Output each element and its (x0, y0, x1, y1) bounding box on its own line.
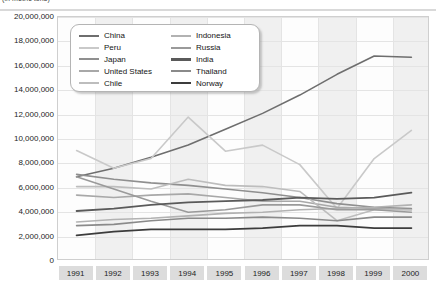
legend-swatch-icon (171, 70, 191, 72)
series-line-peru (77, 117, 412, 208)
legend-label: Japan (104, 54, 126, 65)
x-axis-tick-label: 1996 (245, 266, 279, 280)
legend-swatch-icon (171, 35, 191, 37)
legend-item-russia[interactable]: Russia (171, 42, 263, 54)
legend-item-india[interactable]: India (171, 54, 263, 66)
x-axis-tick-label: 1993 (133, 266, 167, 280)
y-axis-tick-label: 12,000,000 (0, 109, 54, 118)
y-axis: 2,000,0004,000,0006,000,0008,000,00010,0… (0, 14, 54, 262)
legend-item-peru[interactable]: Peru (79, 42, 171, 54)
legend-swatch-icon (79, 70, 99, 72)
legend-label: Russia (196, 42, 220, 53)
legend-item-china[interactable]: China (79, 30, 171, 42)
y-axis-tick-label: 10,000,000 (0, 134, 54, 143)
x-axis-tick-label: 1995 (207, 266, 241, 280)
legend-item-chile[interactable]: Chile (79, 77, 171, 89)
y-axis-zero-label: 0 (0, 256, 54, 265)
legend-swatch-icon (79, 47, 99, 49)
x-axis-tick-label: 1998 (319, 266, 353, 280)
y-axis-tick-label: 18,000,000 (0, 36, 54, 45)
legend-label: Norway (196, 78, 223, 89)
y-axis-tick-label: 16,000,000 (0, 60, 54, 69)
legend-swatch-icon (171, 58, 191, 60)
y-axis-tick-label: 6,000,000 (0, 182, 54, 191)
legend-item-norway[interactable]: Norway (171, 77, 263, 89)
x-axis-tick-label: 1997 (282, 266, 316, 280)
x-axis-tick-label: 1999 (356, 266, 390, 280)
legend-swatch-icon (171, 82, 191, 84)
caption-divider (0, 9, 436, 11)
x-axis-tick-label: 2000 (393, 266, 427, 280)
y-axis-tick-label: 2,000,000 (0, 231, 54, 240)
legend-item-indonesia[interactable]: Indonesia (171, 30, 263, 42)
legend-item-japan[interactable]: Japan (79, 54, 171, 66)
y-axis-tick-label: 4,000,000 (0, 207, 54, 216)
legend-swatch-icon (79, 82, 99, 84)
x-axis-tick-label: 1994 (170, 266, 204, 280)
legend-label: Chile (104, 78, 122, 89)
chart-legend: ChinaPeruJapanUnited StatesChile Indones… (70, 24, 260, 92)
caption-text: (in metric tons) (2, 0, 50, 2)
legend-item-thailand[interactable]: Thailand (171, 65, 263, 77)
legend-item-united-states[interactable]: United States (79, 65, 171, 77)
x-axis: 1991199219931994199519961997199819992000 (57, 266, 429, 282)
series-line-norway (77, 226, 412, 236)
y-axis-tick-label: 8,000,000 (0, 158, 54, 167)
legend-label: United States (104, 66, 152, 77)
chart-screenshot: (in metric tons) 2,000,0004,000,0006,000… (0, 0, 436, 293)
caption-strip: (in metric tons) (0, 0, 436, 12)
legend-label: India (196, 54, 213, 65)
legend-label: Thailand (196, 66, 227, 77)
legend-label: China (104, 30, 125, 41)
legend-column-left: ChinaPeruJapanUnited StatesChile (79, 30, 171, 89)
x-axis-tick-label: 1991 (59, 266, 93, 280)
legend-swatch-icon (79, 58, 99, 60)
legend-label: Peru (104, 42, 121, 53)
legend-swatch-icon (79, 35, 99, 37)
legend-column-right: IndonesiaRussiaIndiaThailandNorway (171, 30, 263, 89)
legend-swatch-icon (171, 47, 191, 49)
legend-label: Indonesia (196, 30, 231, 41)
x-axis-tick-label: 1992 (96, 266, 130, 280)
series-line-japan (77, 174, 412, 208)
y-axis-tick-label: 14,000,000 (0, 85, 54, 94)
y-axis-tick-label: 20,000,000 (0, 12, 54, 21)
